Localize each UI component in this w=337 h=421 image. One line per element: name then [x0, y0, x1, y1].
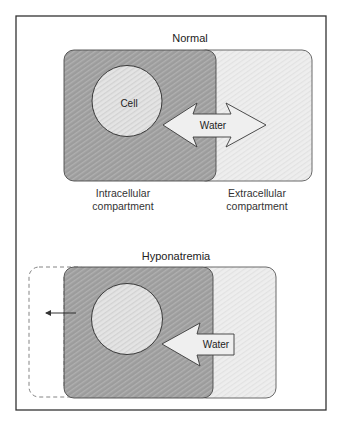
fluid-compartment-diagram: Normal Cell Water Intracellular compartm…	[0, 0, 337, 421]
panel-hyponatremia: Hyponatremia Water	[29, 250, 276, 398]
water-arrow-label: Water	[200, 120, 227, 131]
panel-title-hyponatremia: Hyponatremia	[142, 250, 211, 262]
extracellular-label-line1: Extracellular	[228, 187, 286, 199]
intracellular-label-line2: compartment	[92, 200, 153, 212]
extracellular-label-line2: compartment	[226, 200, 287, 212]
cell-circle-swollen	[92, 284, 163, 355]
intracellular-label-line1: Intracellular	[96, 187, 151, 199]
cell-label: Cell	[120, 98, 137, 109]
water-arrow-inward-label: Water	[203, 339, 230, 350]
panel-title-normal: Normal	[172, 32, 207, 44]
